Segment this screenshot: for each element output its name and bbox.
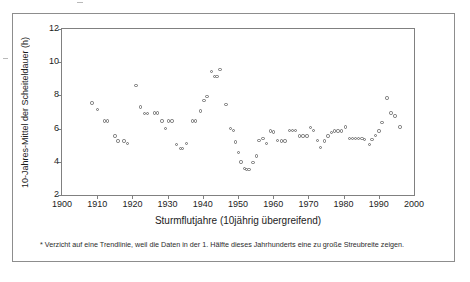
scatter-point [164, 127, 167, 130]
scatter-point [170, 119, 173, 122]
scatter-point [301, 134, 304, 137]
scan-artifact-left [3, 58, 8, 59]
scatter-point [368, 143, 371, 146]
scatter-point [319, 146, 322, 149]
scatter-point [316, 139, 319, 142]
y-axis-tick-label: 6 [54, 123, 59, 134]
scatter-points-layer [62, 29, 414, 195]
scatter-point [265, 142, 268, 145]
scatter-point [283, 139, 286, 142]
x-axis-title: Sturmflutjahre (10jährig übergreifend) [61, 215, 415, 226]
scatter-point [276, 139, 279, 142]
scatter-point [224, 103, 227, 106]
scatter-point [323, 139, 326, 142]
scatter-point [261, 137, 264, 140]
scatter-point [210, 70, 213, 73]
scatter-point [377, 129, 380, 132]
scatter-point [305, 134, 308, 137]
scatter-point [393, 114, 396, 117]
scatter-point [139, 105, 142, 108]
x-axis-tick-label: 1940 [193, 199, 213, 210]
y-axis-tick-label: 4 [54, 156, 59, 167]
scatter-point [113, 134, 116, 137]
scatter-point [205, 95, 208, 98]
scatter-point [232, 129, 235, 132]
scatter-point [389, 111, 392, 114]
scatter-point [380, 121, 383, 124]
figure-root: 10-Jahres-Mittel der Scheiteldauer (h) 2… [0, 0, 470, 282]
plot-area: 2468101219001910192019301940195019601970… [61, 28, 415, 196]
scatter-point [326, 134, 329, 137]
scatter-point [237, 151, 240, 154]
scatter-point [294, 129, 297, 132]
x-axis-tick-label: 1920 [122, 199, 142, 210]
scatter-point [374, 134, 377, 137]
scatter-point [257, 139, 260, 142]
scatter-point [312, 129, 315, 132]
scatter-point [126, 142, 129, 145]
scatter-point [280, 139, 283, 142]
scatter-point [146, 112, 149, 115]
scatter-point [185, 142, 188, 145]
y-axis-tick-label: 8 [54, 89, 59, 100]
y-axis-title: 10-Jahres-Mittel der Scheiteldauer (h) [19, 28, 31, 196]
scatter-point [234, 140, 237, 143]
scatter-point [175, 143, 178, 146]
x-axis-tick-label: 1970 [298, 199, 318, 210]
y-axis-tick-label: 10 [49, 56, 59, 67]
scatter-point [363, 138, 366, 141]
scatter-point [398, 125, 401, 128]
scatter-point [255, 154, 258, 157]
scatter-point [106, 119, 109, 122]
scatter-point [156, 111, 159, 114]
x-axis-tick-label: 1910 [87, 199, 107, 210]
scatter-point [134, 84, 137, 87]
scatter-point [194, 119, 197, 122]
scatter-point [96, 108, 99, 111]
x-axis-tick-label: 1930 [158, 199, 178, 210]
footnote-text: * Verzicht auf eine Trendlinie, weil die… [40, 240, 430, 250]
x-axis-tick-label: 1980 [334, 199, 354, 210]
scatter-point [247, 168, 250, 171]
scatter-point [239, 160, 242, 163]
x-axis-tick-label: 1990 [369, 199, 389, 210]
y-axis-tick-label: 12 [49, 23, 59, 34]
scatter-point [160, 119, 163, 122]
scatter-point [370, 138, 373, 141]
scatter-point [385, 96, 388, 99]
scatter-point [202, 99, 205, 102]
x-axis-tick-label: 1960 [263, 199, 283, 210]
scatter-point [298, 134, 301, 137]
scatter-point [340, 129, 343, 132]
scatter-point [251, 161, 254, 164]
scan-artifact-top [77, 2, 83, 3]
x-axis-tick-label: 1950 [228, 199, 248, 210]
x-axis-tick-label: 2000 [404, 199, 424, 210]
scatter-point [199, 109, 202, 112]
scatter-point [116, 139, 119, 142]
scatter-point [181, 147, 184, 150]
scatter-point [215, 75, 218, 78]
scatter-point [272, 130, 275, 133]
scatter-point [218, 68, 221, 71]
x-axis-tick-label: 1900 [52, 199, 72, 210]
scatter-point [344, 125, 347, 128]
scatter-point [90, 101, 93, 104]
